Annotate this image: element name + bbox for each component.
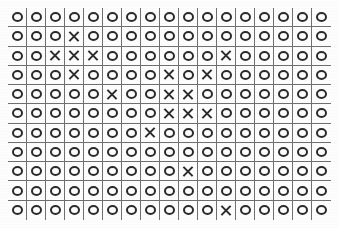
grid-cell[interactable] [103, 104, 122, 123]
grid-cell[interactable] [217, 85, 236, 104]
grid-cell[interactable] [122, 47, 141, 66]
grid-cell[interactable] [46, 47, 65, 66]
grid-cell[interactable] [103, 181, 122, 200]
grid-cell[interactable] [122, 143, 141, 162]
grid-cell[interactable] [274, 181, 293, 200]
grid-cell[interactable] [198, 143, 217, 162]
grid-cell[interactable] [84, 47, 103, 66]
grid-cell[interactable] [103, 27, 122, 46]
grid-cell[interactable] [274, 104, 293, 123]
grid-cell[interactable] [255, 66, 274, 85]
grid-cell[interactable] [122, 162, 141, 181]
grid-cell[interactable] [312, 85, 331, 104]
grid-cell[interactable] [217, 124, 236, 143]
grid-cell[interactable] [274, 85, 293, 104]
grid-cell[interactable] [293, 162, 312, 181]
grid-cell[interactable] [255, 104, 274, 123]
grid-cell[interactable] [236, 47, 255, 66]
grid-cell[interactable] [141, 66, 160, 85]
grid-cell[interactable] [255, 201, 274, 220]
grid-cell[interactable] [8, 85, 27, 104]
grid-cell[interactable] [46, 8, 65, 27]
grid-cell[interactable] [255, 85, 274, 104]
grid-cell[interactable] [293, 27, 312, 46]
grid-cell[interactable] [198, 66, 217, 85]
grid-cell[interactable] [27, 162, 46, 181]
grid-cell[interactable] [274, 8, 293, 27]
grid-cell[interactable] [27, 47, 46, 66]
grid-cell[interactable] [236, 85, 255, 104]
grid-cell[interactable] [65, 66, 84, 85]
grid-cell[interactable] [160, 104, 179, 123]
grid-cell[interactable] [122, 181, 141, 200]
grid-cell[interactable] [122, 104, 141, 123]
grid-cell[interactable] [160, 124, 179, 143]
grid-cell[interactable] [27, 27, 46, 46]
grid-cell[interactable] [65, 27, 84, 46]
grid-cell[interactable] [179, 27, 198, 46]
grid-cell[interactable] [312, 201, 331, 220]
grid-cell[interactable] [217, 47, 236, 66]
grid-cell[interactable] [84, 143, 103, 162]
grid-cell[interactable] [27, 124, 46, 143]
grid-cell[interactable] [84, 27, 103, 46]
grid-cell[interactable] [274, 27, 293, 46]
grid-cell[interactable] [274, 201, 293, 220]
grid-cell[interactable] [65, 124, 84, 143]
grid-cell[interactable] [8, 66, 27, 85]
grid-cell[interactable] [84, 104, 103, 123]
grid-cell[interactable] [8, 104, 27, 123]
grid-cell[interactable] [236, 66, 255, 85]
grid-cell[interactable] [122, 124, 141, 143]
grid-cell[interactable] [160, 27, 179, 46]
grid-cell[interactable] [312, 181, 331, 200]
grid-cell[interactable] [46, 124, 65, 143]
grid-cell[interactable] [65, 201, 84, 220]
grid-cell[interactable] [141, 181, 160, 200]
grid-cell[interactable] [217, 181, 236, 200]
grid-cell[interactable] [274, 162, 293, 181]
grid-cell[interactable] [179, 162, 198, 181]
grid-cell[interactable] [27, 181, 46, 200]
grid-cell[interactable] [198, 201, 217, 220]
grid-cell[interactable] [46, 66, 65, 85]
grid-cell[interactable] [236, 8, 255, 27]
grid-cell[interactable] [198, 124, 217, 143]
grid-cell[interactable] [179, 124, 198, 143]
grid-cell[interactable] [27, 85, 46, 104]
grid-cell[interactable] [293, 8, 312, 27]
grid-cell[interactable] [8, 143, 27, 162]
grid-cell[interactable] [65, 8, 84, 27]
grid-cell[interactable] [103, 201, 122, 220]
grid-cell[interactable] [217, 27, 236, 46]
grid-cell[interactable] [217, 104, 236, 123]
grid-cell[interactable] [179, 181, 198, 200]
grid-cell[interactable] [141, 27, 160, 46]
grid-cell[interactable] [293, 66, 312, 85]
grid-cell[interactable] [217, 162, 236, 181]
grid-cell[interactable] [8, 201, 27, 220]
grid-cell[interactable] [84, 8, 103, 27]
grid-cell[interactable] [293, 47, 312, 66]
grid-cell[interactable] [255, 181, 274, 200]
grid-cell[interactable] [179, 104, 198, 123]
grid-cell[interactable] [65, 181, 84, 200]
grid-cell[interactable] [46, 181, 65, 200]
grid-cell[interactable] [84, 201, 103, 220]
grid-cell[interactable] [65, 143, 84, 162]
grid-cell[interactable] [65, 47, 84, 66]
grid-cell[interactable] [293, 143, 312, 162]
grid-cell[interactable] [27, 66, 46, 85]
grid-cell[interactable] [198, 104, 217, 123]
grid-cell[interactable] [236, 201, 255, 220]
grid-cell[interactable] [141, 8, 160, 27]
grid-cell[interactable] [27, 201, 46, 220]
grid-cell[interactable] [141, 124, 160, 143]
grid-cell[interactable] [236, 104, 255, 123]
grid-cell[interactable] [217, 201, 236, 220]
grid-cell[interactable] [312, 104, 331, 123]
grid-cell[interactable] [255, 143, 274, 162]
grid-cell[interactable] [27, 8, 46, 27]
grid-cell[interactable] [65, 104, 84, 123]
grid-cell[interactable] [160, 66, 179, 85]
